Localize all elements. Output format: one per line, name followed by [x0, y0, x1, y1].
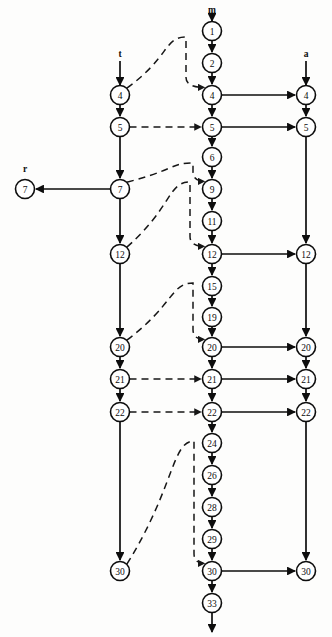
- node-m-33[interactable]: 33: [203, 594, 222, 613]
- node-m-1[interactable]: 1: [203, 22, 222, 41]
- curved-dashed-edge-t-12-to-m-12: [127, 182, 205, 247]
- node-circle-a-5[interactable]: [297, 118, 316, 137]
- node-r-7[interactable]: 7: [16, 180, 35, 199]
- curved-dashed-edge-t-4-to-m-4: [127, 37, 205, 88]
- node-circle-m-19[interactable]: [203, 308, 222, 327]
- label-t: t: [118, 49, 122, 59]
- node-m-20[interactable]: 20: [203, 338, 222, 357]
- node-t-20[interactable]: 20: [111, 338, 130, 357]
- diagram-canvas: 7457122021223012456911121519202122242628…: [0, 0, 332, 637]
- node-a-5[interactable]: 5: [297, 118, 316, 137]
- node-a-4[interactable]: 4: [297, 86, 316, 105]
- curved-dashed-edge-t-30-to-m-30: [127, 441, 205, 564]
- node-t-4[interactable]: 4: [111, 86, 130, 105]
- node-circle-m-33[interactable]: [203, 594, 222, 613]
- node-circle-a-30[interactable]: [297, 562, 316, 581]
- node-circle-m-22[interactable]: [203, 403, 222, 422]
- node-circle-t-4[interactable]: [111, 86, 130, 105]
- node-circle-m-29[interactable]: [203, 530, 222, 549]
- node-circle-m-15[interactable]: [203, 277, 222, 296]
- node-t-7[interactable]: 7: [111, 180, 130, 199]
- node-m-24[interactable]: 24: [203, 434, 222, 453]
- node-circle-m-4[interactable]: [203, 86, 222, 105]
- node-circle-m-20[interactable]: [203, 338, 222, 357]
- node-circle-a-20[interactable]: [297, 338, 316, 357]
- node-circle-r-7[interactable]: [16, 180, 35, 199]
- label-m: m: [208, 5, 216, 15]
- node-circle-m-11[interactable]: [203, 212, 222, 231]
- label-r: r: [23, 164, 28, 174]
- flow-diagram-svg: 7457122021223012456911121519202122242628…: [0, 0, 332, 637]
- curved-dashed-edge-layer: [127, 37, 205, 564]
- node-a-30[interactable]: 30: [297, 562, 316, 581]
- node-circle-a-22[interactable]: [297, 403, 316, 422]
- node-layer: 7457122021223012456911121519202122242628…: [16, 22, 316, 613]
- node-a-20[interactable]: 20: [297, 338, 316, 357]
- node-m-29[interactable]: 29: [203, 530, 222, 549]
- label-a: a: [304, 49, 309, 59]
- node-circle-m-21[interactable]: [203, 370, 222, 389]
- node-circle-m-6[interactable]: [203, 148, 222, 167]
- node-m-30[interactable]: 30: [203, 562, 222, 581]
- node-m-2[interactable]: 2: [203, 54, 222, 73]
- horizontal-solid-edge-layer: [36, 95, 295, 571]
- node-m-26[interactable]: 26: [203, 466, 222, 485]
- node-a-22[interactable]: 22: [297, 403, 316, 422]
- node-m-22[interactable]: 22: [203, 403, 222, 422]
- node-circle-t-30[interactable]: [111, 562, 130, 581]
- node-m-19[interactable]: 19: [203, 308, 222, 327]
- node-circle-m-28[interactable]: [203, 498, 222, 517]
- node-circle-t-5[interactable]: [111, 118, 130, 137]
- node-m-11[interactable]: 11: [203, 212, 222, 231]
- curved-dashed-edge-t-20-to-m-20: [127, 283, 205, 340]
- node-t-21[interactable]: 21: [111, 370, 130, 389]
- node-circle-m-1[interactable]: [203, 22, 222, 41]
- node-a-12[interactable]: 12: [297, 245, 316, 264]
- node-circle-a-21[interactable]: [297, 370, 316, 389]
- node-circle-m-9[interactable]: [203, 180, 222, 199]
- node-circle-m-2[interactable]: [203, 54, 222, 73]
- node-circle-m-30[interactable]: [203, 562, 222, 581]
- curved-dashed-edge-t-7-to-m-9: [127, 163, 205, 182]
- node-t-30[interactable]: 30: [111, 562, 130, 581]
- node-circle-t-7[interactable]: [111, 180, 130, 199]
- column-label-layer: tmar: [23, 5, 309, 174]
- node-t-22[interactable]: 22: [111, 403, 130, 422]
- node-m-21[interactable]: 21: [203, 370, 222, 389]
- node-circle-m-26[interactable]: [203, 466, 222, 485]
- node-circle-t-12[interactable]: [111, 245, 130, 264]
- node-m-9[interactable]: 9: [203, 180, 222, 199]
- node-m-12[interactable]: 12: [203, 245, 222, 264]
- node-circle-a-4[interactable]: [297, 86, 316, 105]
- node-circle-t-20[interactable]: [111, 338, 130, 357]
- node-m-6[interactable]: 6: [203, 148, 222, 167]
- node-circle-t-22[interactable]: [111, 403, 130, 422]
- node-a-21[interactable]: 21: [297, 370, 316, 389]
- node-m-4[interactable]: 4: [203, 86, 222, 105]
- node-m-5[interactable]: 5: [203, 118, 222, 137]
- node-circle-m-12[interactable]: [203, 245, 222, 264]
- node-circle-t-21[interactable]: [111, 370, 130, 389]
- node-m-28[interactable]: 28: [203, 498, 222, 517]
- node-m-15[interactable]: 15: [203, 277, 222, 296]
- node-circle-m-24[interactable]: [203, 434, 222, 453]
- node-circle-a-12[interactable]: [297, 245, 316, 264]
- node-t-12[interactable]: 12: [111, 245, 130, 264]
- node-t-5[interactable]: 5: [111, 118, 130, 137]
- node-circle-m-5[interactable]: [203, 118, 222, 137]
